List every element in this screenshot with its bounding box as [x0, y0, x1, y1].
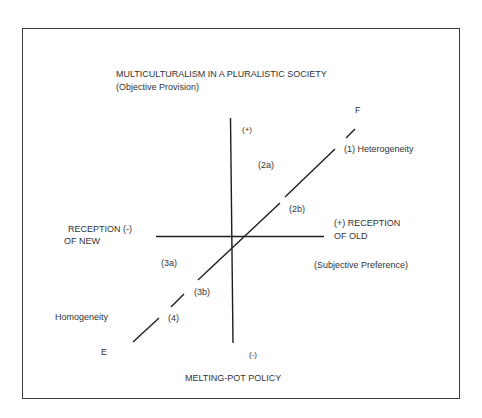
region-2a: (2a) — [258, 159, 274, 171]
region-2b: (2b) — [289, 203, 305, 215]
diagonal-end-e: E — [101, 346, 107, 358]
diagonal-end-f: F — [355, 104, 361, 116]
left-axis-label-line2: OF NEW — [64, 235, 100, 247]
bottom-title: MELTING-POT POLICY — [185, 372, 281, 384]
diagonal-segment-ef-2 — [171, 294, 184, 307]
diagram-lines — [0, 0, 482, 418]
left-axis-label-line1: RECEPTION (-) — [68, 223, 132, 235]
region-4: (4) — [168, 312, 179, 324]
right-axis-label-line1: (+) RECEPTION — [334, 217, 400, 229]
region-1-heterogeneity: (1) Heterogeneity — [344, 143, 414, 155]
region-3b: (3b) — [194, 286, 210, 298]
top-title: MULTICULTURALISM IN A PLURALISTIC SOCIET… — [116, 68, 327, 80]
top-subtitle: (Objective Provision) — [116, 81, 199, 93]
region-3a: (3a) — [161, 257, 177, 269]
homogeneity-label: Homogeneity — [55, 311, 108, 323]
vertical-bottom-sign: (-) — [249, 349, 257, 361]
right-subtitle: (Subjective Preference) — [314, 259, 408, 271]
diagonal-segment-ef-4 — [285, 149, 335, 197]
vertical-top-sign: (+) — [242, 124, 252, 136]
right-axis-label-line2: OF OLD — [334, 230, 368, 242]
diagonal-segment-ef-5 — [346, 129, 355, 138]
diagonal-segment-ef-1 — [133, 318, 159, 342]
pluralism-diagram: MULTICULTURALISM IN A PLURALISTIC SOCIET… — [0, 0, 482, 418]
vertical-axis — [231, 118, 234, 343]
diagonal-segment-ef-3 — [198, 203, 280, 280]
